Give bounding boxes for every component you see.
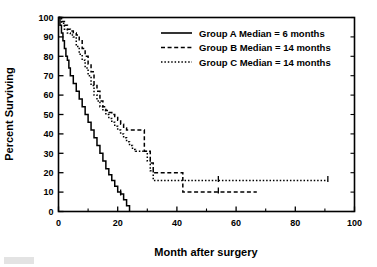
y-tick-label: 10 (43, 187, 53, 197)
x-axis-title: Month after surgery (154, 246, 258, 258)
y-tick-label: 90 (43, 32, 53, 42)
x-tick-label: 20 (113, 218, 123, 228)
y-tick-label: 40 (43, 129, 53, 139)
y-axis-title: Percent Surviving (3, 67, 15, 161)
y-tick-label: 80 (43, 52, 53, 62)
legend-label: Group A Median = 6 months (199, 28, 325, 39)
y-axis-tick-labels: 0102030405060708090100 (38, 13, 53, 217)
kaplan-meier-figure: 0102030405060708090100 020406080100 Grou… (0, 0, 377, 267)
scan-artifact (4, 257, 34, 264)
y-tick-label: 20 (43, 168, 53, 178)
survival-curve-group-a (59, 18, 130, 212)
y-tick-label: 100 (38, 13, 53, 23)
y-tick-label: 70 (43, 71, 53, 81)
x-tick-label: 100 (347, 218, 362, 228)
x-tick-label: 0 (56, 218, 61, 228)
y-tick-label: 0 (48, 207, 53, 217)
legend-line-samples (161, 33, 192, 62)
x-tick-label: 40 (172, 218, 182, 228)
survival-plot-svg: 0102030405060708090100 020406080100 Grou… (0, 0, 377, 267)
legend: Group A Median = 6 monthsGroup B Median … (161, 28, 331, 68)
legend-label-group: Group A Median = 6 monthsGroup B Median … (199, 28, 331, 68)
x-tick-label: 60 (231, 218, 241, 228)
y-tick-label: 60 (43, 90, 53, 100)
legend-label: Group C Median = 14 months (199, 57, 331, 68)
x-tick-label: 80 (290, 218, 300, 228)
legend-label: Group B Median = 14 months (199, 42, 331, 53)
x-axis-tick-labels: 020406080100 (56, 218, 362, 228)
y-tick-label: 30 (43, 149, 53, 159)
y-tick-label: 50 (43, 110, 53, 120)
